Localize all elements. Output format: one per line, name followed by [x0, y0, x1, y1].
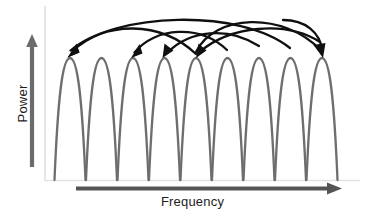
lobe-3: [118, 58, 149, 180]
lobe-1: [55, 58, 86, 180]
lobe-6: [212, 58, 243, 180]
spectrum-plot-svg: [0, 0, 385, 218]
subcarrier-lobes: [55, 58, 338, 180]
mapping-arcs: [71, 20, 323, 54]
spectrum-figure: Power Frequency: [0, 0, 385, 218]
lobe-5: [181, 58, 212, 180]
lobe-7: [244, 58, 275, 180]
arrowhead-peak-9: [314, 43, 326, 58]
x-axis-label: Frequency: [0, 194, 385, 209]
lobe-2: [86, 58, 117, 180]
frequency-axis-arrow: [76, 182, 342, 194]
lobe-8: [275, 58, 306, 180]
lobe-9: [307, 58, 338, 180]
arrowhead-peak-4: [163, 44, 174, 59]
y-axis-label: Power: [15, 69, 30, 139]
arc-peak5-to-peak9: [196, 22, 321, 52]
lobe-4: [149, 58, 180, 180]
arrowhead-peak-5: [196, 44, 207, 59]
